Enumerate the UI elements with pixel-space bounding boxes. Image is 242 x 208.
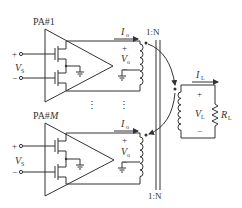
coupling-arrow-top <box>148 44 175 85</box>
svg-text:I: I <box>195 69 200 80</box>
load-circuit: I L + V L − R L <box>174 69 233 138</box>
svg-text:S: S <box>21 68 24 74</box>
svg-text:+: + <box>12 141 17 151</box>
load-resistor <box>212 104 218 126</box>
svg-text:I: I <box>120 26 125 37</box>
amplifier-pam: PA#M + V S − I o <box>12 110 162 201</box>
svg-text:+: + <box>197 89 202 99</box>
pam-turns-ratio: 1:N <box>148 191 162 201</box>
secondary-polarity-dot <box>174 88 177 91</box>
svg-text:−: − <box>122 64 127 74</box>
svg-text:o: o <box>126 124 129 130</box>
svg-text:o: o <box>127 59 130 65</box>
svg-text:−: − <box>12 73 17 83</box>
svg-text:L: L <box>228 115 232 121</box>
pam-transistors <box>55 133 140 184</box>
pa1-label: PA#1 <box>33 16 55 27</box>
svg-text:−: − <box>197 126 202 136</box>
pam-primary-coil <box>140 133 143 184</box>
pa1-turns-ratio: 1:N <box>146 27 160 37</box>
pam-output-labels: I o + V o − <box>114 118 138 167</box>
circuit-diagram: PA#1 + V S − I <box>0 0 242 208</box>
svg-text:L: L <box>201 114 205 120</box>
ellipsis-right: ⋮ <box>119 99 129 110</box>
svg-text:+: + <box>12 49 17 59</box>
svg-text:L: L <box>201 75 205 81</box>
amplifier-pa1: PA#1 + V S − I <box>12 16 160 102</box>
pa1-polarity-dot <box>145 42 148 45</box>
svg-text:+: + <box>122 135 127 145</box>
svg-text:−: − <box>12 167 17 177</box>
pam-label: PA#M <box>33 110 59 121</box>
pa1-transistors <box>55 41 140 91</box>
svg-text:I: I <box>120 118 125 129</box>
svg-text:R: R <box>220 109 227 120</box>
ellipsis-left: ⋮ <box>87 99 97 110</box>
pa1-primary-coil <box>140 41 143 91</box>
pa1-output-labels: I o + V o − <box>114 26 138 74</box>
pa1-input-terminals: + V S − <box>12 49 55 83</box>
coupling-arrow-bottom <box>149 93 175 134</box>
pam-input-terminals: + V S − <box>12 141 55 177</box>
pam-polarity-dot <box>145 134 148 137</box>
svg-text:o: o <box>126 32 129 38</box>
svg-text:S: S <box>21 161 24 167</box>
svg-text:o: o <box>127 152 130 158</box>
svg-text:+: + <box>122 43 127 53</box>
